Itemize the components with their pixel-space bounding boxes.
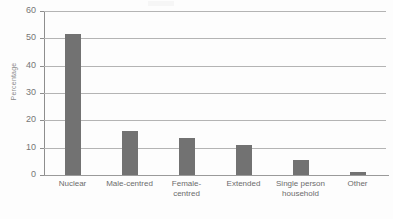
y-tick-label-60: 60: [0, 6, 36, 15]
gridline-40: [44, 66, 386, 67]
bar: [179, 138, 195, 175]
gridline-60: [44, 11, 386, 12]
gridline-30: [44, 93, 386, 94]
gridline-20: [44, 120, 386, 121]
x-axis-label-line: centred: [158, 189, 215, 199]
tick-60: [40, 11, 44, 12]
tick-40: [40, 66, 44, 67]
bar: [293, 160, 309, 175]
gridline-50: [44, 38, 386, 39]
x-axis-label: Single personhousehold: [272, 179, 329, 199]
x-axis-label: Other: [329, 179, 386, 189]
tick-20: [40, 120, 44, 121]
x-axis-label: Male-centred: [101, 179, 158, 189]
y-tick-label-10: 10: [0, 143, 36, 152]
y-tick-label-20: 20: [0, 115, 36, 124]
y-tick-label-0: 0: [0, 170, 36, 179]
scan-artifact: [148, 1, 174, 6]
y-tick-label-30: 30: [0, 88, 36, 97]
x-axis-label: Female-centred: [158, 179, 215, 199]
bar-chart: Percentage 0102030405060 NuclearMale-cen…: [0, 0, 393, 219]
tick-30: [40, 93, 44, 94]
tick-50: [40, 38, 44, 39]
bar: [122, 131, 138, 175]
x-axis-line: [44, 175, 389, 176]
x-axis-label-line: Extended: [215, 179, 272, 189]
x-axis-label-line: Female-: [158, 179, 215, 189]
x-axis-label-line: Nuclear: [44, 179, 101, 189]
x-axis-label-line: Single person: [272, 179, 329, 189]
x-axis-label-line: household: [272, 189, 329, 199]
x-axis-label-line: Other: [329, 179, 386, 189]
bar: [65, 34, 81, 175]
bar: [236, 145, 252, 175]
gridline-10: [44, 148, 386, 149]
plot-area: [44, 11, 386, 175]
y-tick-label-50: 50: [0, 33, 36, 42]
y-axis-title: Percentage: [10, 47, 17, 117]
tick-10: [40, 148, 44, 149]
x-axis-label: Nuclear: [44, 179, 101, 189]
x-axis-label-line: Male-centred: [101, 179, 158, 189]
y-tick-label-40: 40: [0, 61, 36, 70]
x-axis-label: Extended: [215, 179, 272, 189]
